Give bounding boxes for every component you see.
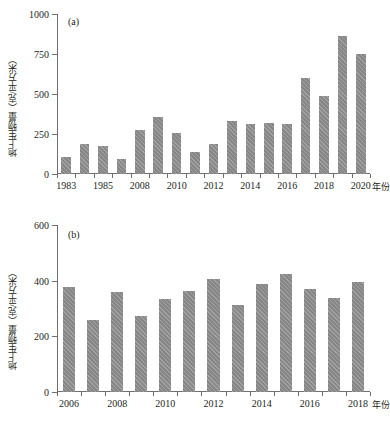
y-tick-label: 500 <box>34 89 49 100</box>
x-tick-mark <box>322 392 323 396</box>
y-tick-mark <box>52 94 57 95</box>
x-tick-label: 1983 <box>56 180 76 191</box>
x-tick-label: 2016 <box>300 398 320 409</box>
bar-series-b <box>57 225 370 392</box>
bar <box>117 159 127 174</box>
x-tick-label: 1985 <box>93 180 113 191</box>
x-tick-label: 2020 <box>351 180 371 191</box>
chart-panel-a: 地上生物量（克/平方米） (a) 02505007501000 19831985… <box>0 0 386 213</box>
y-tick-label: 600 <box>34 220 49 231</box>
y-axis-label-b: 地上生物量（克/平方米） <box>4 213 20 426</box>
x-tick-label: 2016 <box>277 180 297 191</box>
x-tick-mark <box>129 392 130 396</box>
bar <box>63 287 75 392</box>
x-tick-mark <box>315 174 316 178</box>
x-tick-mark <box>177 392 178 396</box>
x-axis-name-a: 年份 <box>372 180 390 193</box>
x-tick-mark <box>346 392 347 396</box>
chart-panel-b: 地上生物量（克/平方米） (b) 0200400600 200620082010… <box>0 213 386 426</box>
bar-series-a <box>57 14 370 174</box>
x-tick-mark <box>201 392 202 396</box>
bar <box>159 299 171 392</box>
x-tick-mark <box>186 174 187 178</box>
bar <box>135 316 147 392</box>
y-tick-label: 750 <box>34 49 49 60</box>
bar <box>282 124 292 174</box>
x-tick-mark <box>241 174 242 178</box>
x-tick-mark <box>333 174 334 178</box>
y-tick-label: 400 <box>34 275 49 286</box>
y-tick-mark <box>52 336 57 337</box>
x-tick-mark <box>81 392 82 396</box>
x-tick-mark <box>274 392 275 396</box>
y-tick-label: 0 <box>44 169 49 180</box>
bar <box>135 130 145 174</box>
x-tick-mark <box>223 174 224 178</box>
x-tick-mark <box>250 392 251 396</box>
bar <box>227 121 237 174</box>
plot-area-b: 0200400600 2006200820102012201420162018 … <box>57 225 370 392</box>
y-tick-label: 1000 <box>29 9 49 20</box>
x-tick-label: 2006 <box>59 398 79 409</box>
bar <box>80 144 90 174</box>
bar <box>264 123 274 174</box>
x-tick-mark <box>149 174 150 178</box>
bar <box>256 284 268 392</box>
x-tick-mark <box>131 174 132 178</box>
bar <box>87 320 99 392</box>
x-tick-mark <box>167 174 168 178</box>
x-tick-mark <box>278 174 279 178</box>
x-tick-mark <box>204 174 205 178</box>
bar <box>190 152 200 174</box>
x-tick-label: 2014 <box>240 180 260 191</box>
x-tick-mark <box>112 174 113 178</box>
x-tick-mark <box>298 392 299 396</box>
y-tick-mark <box>52 54 57 55</box>
x-tick-mark <box>226 392 227 396</box>
y-tick-label: 250 <box>34 129 49 140</box>
bar <box>98 146 108 174</box>
y-tick-label: 200 <box>34 331 49 342</box>
y-axis-label-a: 地上生物量（克/平方米） <box>4 0 20 213</box>
bar <box>209 144 219 174</box>
bar <box>207 279 219 392</box>
bar <box>246 124 256 174</box>
x-tick-mark <box>75 174 76 178</box>
y-tick-mark <box>52 14 57 15</box>
bar <box>111 292 123 392</box>
x-tick-mark <box>105 392 106 396</box>
x-tick-mark <box>153 392 154 396</box>
x-tick-label: 2008 <box>130 180 150 191</box>
x-tick-mark <box>296 174 297 178</box>
bar <box>153 117 163 174</box>
bar <box>301 78 311 174</box>
plot-area-a: 02505007501000 1983198520082010201220142… <box>57 14 370 174</box>
x-tick-mark <box>352 174 353 178</box>
x-tick-label: 2008 <box>107 398 127 409</box>
bar <box>172 133 182 174</box>
y-tick-mark <box>52 281 57 282</box>
bar <box>183 291 195 392</box>
x-tick-mark <box>260 174 261 178</box>
bar <box>232 305 244 392</box>
x-tick-mark <box>94 174 95 178</box>
x-tick-mark <box>370 392 371 396</box>
x-tick-label: 2012 <box>204 180 224 191</box>
x-tick-label: 2012 <box>204 398 224 409</box>
x-tick-label: 2010 <box>155 398 175 409</box>
x-tick-label: 2018 <box>314 180 334 191</box>
y-tick-mark <box>52 225 57 226</box>
x-tick-mark <box>57 174 58 178</box>
bar <box>280 274 292 392</box>
x-tick-label: 2010 <box>167 180 187 191</box>
bar <box>319 96 329 174</box>
bar <box>304 289 316 392</box>
bar <box>328 298 340 392</box>
y-tick-mark <box>52 134 57 135</box>
x-tick-mark <box>57 392 58 396</box>
bar <box>352 282 364 392</box>
x-tick-label: 2014 <box>252 398 272 409</box>
x-axis-name-b: 年份 <box>372 398 390 411</box>
bar <box>61 157 71 174</box>
